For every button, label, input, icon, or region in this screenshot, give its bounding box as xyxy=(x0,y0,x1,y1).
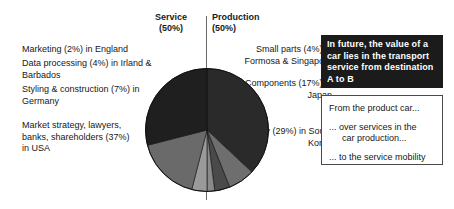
header-service-percent: (50%) xyxy=(136,23,206,34)
pie-chart xyxy=(145,68,269,192)
label-marketing: Marketing (2%) in England xyxy=(22,44,182,56)
step-service-mobility-text: ... to the service mobility xyxy=(329,152,426,162)
step-product-car-text: From the product car... xyxy=(329,103,420,113)
label-market-strategy: Market strategy, lawyers, banks, shareho… xyxy=(22,120,138,155)
header-production-title: Production xyxy=(212,12,260,22)
step-product-car: From the product car... xyxy=(329,103,435,115)
header-service-title: Service xyxy=(155,12,187,22)
step-services-production: ... over services in the car production.… xyxy=(329,122,435,145)
service-production-divider-line xyxy=(206,16,207,68)
pie-slices xyxy=(145,69,268,192)
pie-chart-svg xyxy=(145,68,269,192)
label-styling-construction: Styling & construction (7%) in Germany xyxy=(22,84,142,107)
header-production: Production (50%) xyxy=(208,12,292,34)
step-services-production-text: car production... xyxy=(329,133,435,145)
diagram-canvas: Service (50%) Production (50%) Marketing… xyxy=(0,0,454,209)
label-small-parts: Small parts (4%) in Formosa & Singapore xyxy=(222,44,332,67)
step-service-mobility: ... to the service mobility xyxy=(329,152,435,164)
future-value-callout: In future, the value of a car lies in th… xyxy=(321,35,443,88)
transformation-steps-box: From the product car... ... over service… xyxy=(321,95,443,165)
header-service: Service (50%) xyxy=(136,12,206,34)
header-production-percent: (50%) xyxy=(212,23,292,34)
step-services-production-lead: ... over services in the xyxy=(329,122,417,132)
